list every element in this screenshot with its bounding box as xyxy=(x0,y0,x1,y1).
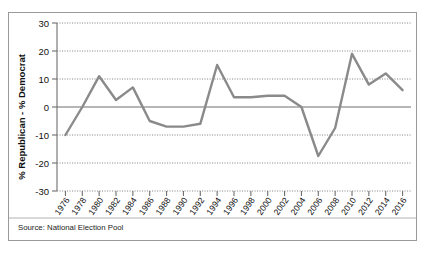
x-tick-label: 1988 xyxy=(154,195,173,217)
y-tick-label: 10 xyxy=(38,74,49,85)
x-tick-label: 2014 xyxy=(373,195,392,217)
x-tick-label: 1986 xyxy=(137,195,156,217)
x-tick-label: 2010 xyxy=(339,195,358,217)
y-tick-marks xyxy=(52,23,57,191)
source-note: Source: National Election Pool xyxy=(18,223,124,232)
election-margin-line-chart: % Republican - % Democrat 30 20 xyxy=(9,13,416,240)
x-tick-label: 1984 xyxy=(120,195,139,217)
x-tick-label: 1990 xyxy=(170,195,189,217)
y-tick-label: 20 xyxy=(38,46,49,57)
x-tick-label: 1982 xyxy=(103,195,122,217)
x-tick-label: 2004 xyxy=(288,195,307,217)
x-tick-label: 2002 xyxy=(272,195,291,217)
y-axis-title: % Republican - % Democrat xyxy=(16,53,27,179)
x-tick-label: 2016 xyxy=(390,195,409,217)
x-tick-labels: 1976197819801982198419861988199019921994… xyxy=(52,195,408,217)
x-tick-label: 1978 xyxy=(69,195,88,217)
x-tick-label: 1992 xyxy=(187,195,206,217)
x-tick-label: 1976 xyxy=(52,195,71,217)
data-series-line xyxy=(65,54,402,156)
y-tick-label: 30 xyxy=(38,18,49,29)
x-tick-marks xyxy=(65,191,402,196)
x-tick-label: 1996 xyxy=(221,195,240,217)
x-tick-label: 2008 xyxy=(322,195,341,217)
x-tick-label: 2012 xyxy=(356,195,375,217)
y-tick-label: -30 xyxy=(35,186,49,197)
x-tick-label: 1980 xyxy=(86,195,105,217)
x-tick-label: 1998 xyxy=(238,195,257,217)
chart-panel: % Republican - % Democrat 30 20 xyxy=(8,12,417,241)
y-tick-labels: 30 20 10 0 -10 -20 -30 xyxy=(35,18,49,197)
y-tick-label: -20 xyxy=(35,158,49,169)
y-tick-label: 0 xyxy=(44,102,49,113)
y-tick-label: -10 xyxy=(35,130,49,141)
x-tick-label: 2006 xyxy=(305,195,324,217)
x-tick-label: 2000 xyxy=(255,195,274,217)
x-tick-label: 1994 xyxy=(204,195,223,217)
